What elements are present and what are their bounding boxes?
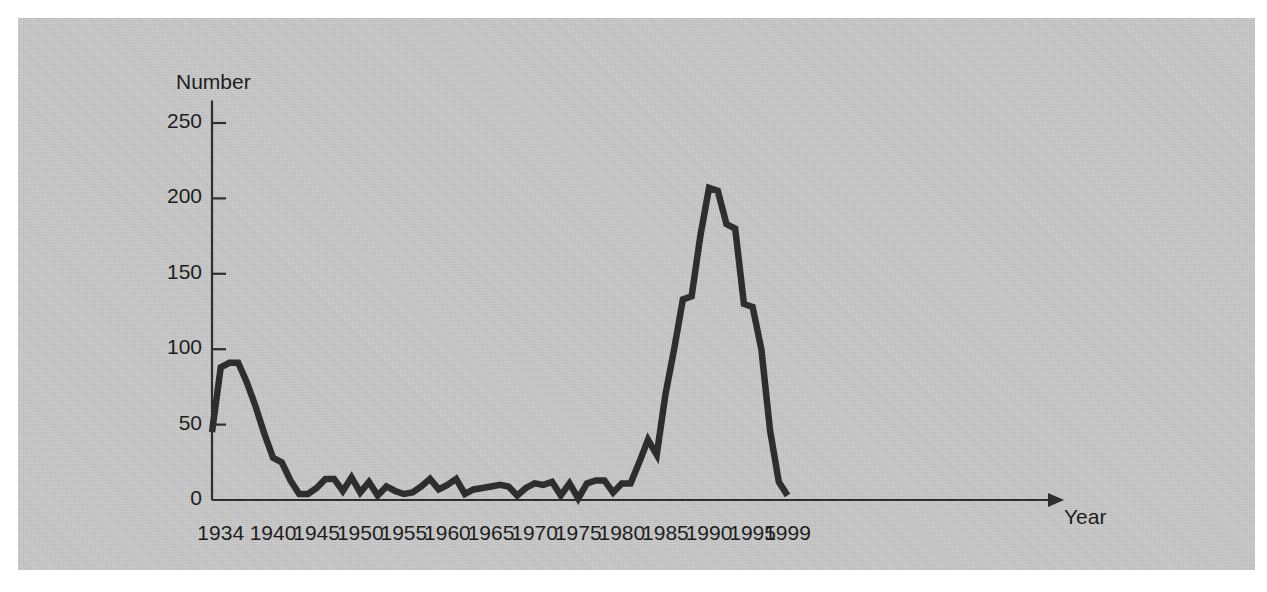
chart-panel: Number Year 050100150200250 193419401945… (18, 18, 1255, 570)
x-axis-arrow-icon (1048, 493, 1064, 507)
chart-figure: Number Year 050100150200250 193419401945… (0, 0, 1267, 592)
axis-lines (212, 100, 1048, 500)
data-series-line (212, 188, 788, 499)
arrow-head-shape (1048, 493, 1064, 507)
plot-area (18, 18, 1255, 570)
